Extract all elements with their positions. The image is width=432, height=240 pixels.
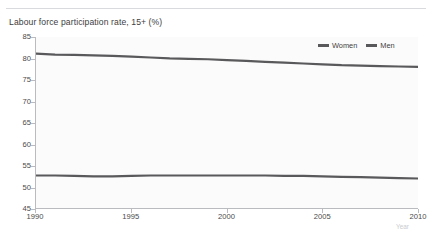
y-tick-mark xyxy=(31,145,35,146)
x-tick-label: 2010 xyxy=(398,212,432,221)
y-tick-label: 80 xyxy=(11,55,31,63)
chart-legend: WomenMen xyxy=(318,41,395,50)
y-tick-label: 55 xyxy=(11,162,31,170)
legend-entry-men[interactable]: Men xyxy=(366,41,394,50)
chart-page: Labour force participation rate, 15+ (%)… xyxy=(0,0,432,240)
x-tick-mark xyxy=(418,209,419,213)
x-axis-label: Year xyxy=(396,223,409,231)
legend-label: Women xyxy=(332,41,357,50)
y-tick-mark xyxy=(31,123,35,124)
series-line-women xyxy=(36,54,418,67)
series-lines xyxy=(36,37,418,208)
y-tick-label: 70 xyxy=(11,98,31,106)
x-tick-mark xyxy=(322,209,323,213)
cropped-top-text xyxy=(6,0,426,7)
x-tick-label: 2000 xyxy=(207,212,247,221)
y-axis: 455055606570758085 xyxy=(0,0,31,240)
x-tick-mark xyxy=(227,209,228,213)
legend-swatch-icon xyxy=(366,44,377,46)
y-tick-label: 85 xyxy=(11,33,31,41)
y-tick-mark xyxy=(31,166,35,167)
top-divider-rule xyxy=(6,8,426,9)
y-tick-mark xyxy=(31,188,35,189)
legend-entry-women[interactable]: Women xyxy=(318,41,357,50)
y-tick-label: 75 xyxy=(11,76,31,84)
y-tick-mark xyxy=(31,102,35,103)
y-tick-mark xyxy=(31,59,35,60)
legend-label: Men xyxy=(380,41,394,50)
x-tick-mark xyxy=(131,209,132,213)
y-tick-label: 60 xyxy=(11,141,31,149)
y-tick-label: 50 xyxy=(11,184,31,192)
y-tick-mark xyxy=(31,37,35,38)
legend-swatch-icon xyxy=(318,44,329,46)
series-line-men xyxy=(36,176,418,179)
y-tick-label: 65 xyxy=(11,119,31,127)
plot-area xyxy=(35,37,418,209)
chart-title: Labour force participation rate, 15+ (%) xyxy=(9,17,162,28)
x-tick-label: 2005 xyxy=(302,212,342,221)
x-tick-label: 1995 xyxy=(111,212,151,221)
x-tick-mark xyxy=(35,209,36,213)
y-tick-mark xyxy=(31,80,35,81)
x-tick-label: 1990 xyxy=(15,212,55,221)
